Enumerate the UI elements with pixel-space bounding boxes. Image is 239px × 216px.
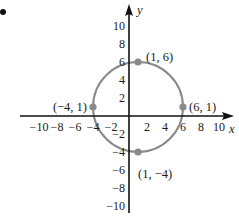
y-tick-label: 2 [119,91,125,105]
y-tick-label: −2 [112,127,125,141]
data-point [89,103,96,110]
data-point [134,148,141,155]
data-point [179,103,186,110]
x-tick-label: 8 [198,120,204,134]
y-tick-label: −8 [112,181,125,195]
y-tick-label: 8 [119,37,125,51]
x-tick-label: 6 [180,120,186,134]
coordinate-plot: x y −10−8−6−4−2246810 108642−2−4−6−8−10 … [0,0,239,216]
x-tick-label: −6 [69,120,82,134]
x-axis-label: x [228,122,235,136]
point-label: (−4, 1) [53,100,87,114]
y-tick-label: 6 [119,55,125,69]
data-point [134,58,141,65]
x-tick-label: 2 [144,120,150,134]
point-label: (1, 6) [146,50,173,64]
x-tick-label: 4 [162,120,168,134]
y-tick-label: −10 [106,199,125,213]
x-tick-label: −10 [30,120,49,134]
y-axis-label: y [135,3,143,17]
x-tick-label: −8 [51,120,64,134]
x-tick-label: 10 [213,120,225,134]
circle-curve [93,62,183,152]
point-label: (6, 1) [189,100,216,114]
y-tick-label: −6 [112,163,125,177]
y-tick-label: 4 [119,73,125,87]
x-tick-label: −4 [87,120,100,134]
x-tick-labels: −10−8−6−4−2246810 [30,120,225,134]
y-tick-label: 10 [113,19,125,33]
point-label: (1, −4) [138,167,172,181]
y-tick-label: −4 [112,145,125,159]
